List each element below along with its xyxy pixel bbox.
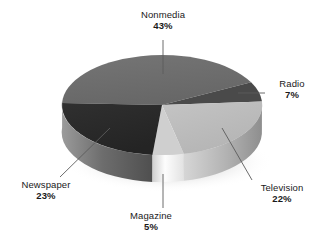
slice-label-radio-percent: 7% [268,89,316,100]
pie-top-faces [62,55,262,155]
slice-label-magazine-percent: 5% [116,221,186,232]
slice-label-newspaper-category: Newspaper [6,179,86,190]
slice-label-television: Television 22% [248,182,316,204]
slice-label-newspaper: Newspaper 23% [6,179,86,201]
slice-label-television-percent: 22% [248,193,316,204]
slice-label-nonmedia-category: Nonmedia [122,9,204,20]
slice-label-magazine: Magazine 5% [116,210,186,232]
slice-label-magazine-category: Magazine [116,210,186,221]
slice-label-newspaper-percent: 23% [6,190,86,201]
slice-label-nonmedia: Nonmedia 43% [122,9,204,31]
slice-label-radio: Radio 7% [268,78,316,100]
slice-label-nonmedia-percent: 43% [122,20,204,31]
pie-chart-figure: Nonmedia 43% Radio 7% Television 22% Mag… [0,0,322,251]
side-wall-magazine [152,154,183,182]
slice-label-radio-category: Radio [268,78,316,89]
slice-label-television-category: Television [248,182,316,193]
